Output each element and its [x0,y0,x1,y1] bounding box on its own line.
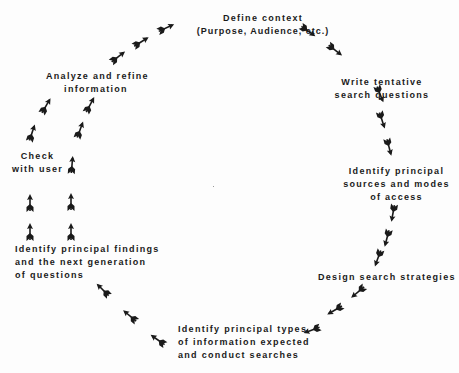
arrow-design-to-types-1 [349,284,367,301]
arrow-findings-to-analyze-3 [68,156,77,175]
arrow-findings-to-analyze-4 [74,120,87,139]
arrow-sources-to-design-1 [388,204,398,223]
node-analyze-refine: Analyze and refine information [46,70,146,96]
node-types-line-3: and conduct searches [178,349,310,362]
center-speck [213,186,214,187]
node-write-line-1: Write tentative [322,76,442,89]
arrow-types-to-findings-2 [121,308,139,325]
arrow-analyze-to-define-3 [156,21,175,35]
arrow-findings-to-analyze-2 [68,193,75,211]
node-identify-findings: Identify principal findings and the next… [15,243,160,282]
node-findings-line-1: Identify principal findings [15,243,160,256]
node-define-line-1: Define context [193,12,333,25]
arrow-types-to-findings-1 [149,332,168,348]
arrow-findings-to-analyze-5 [83,95,98,114]
arrow-define-to-write-2 [326,42,344,59]
arrow-check-to-analyze-1 [26,123,38,142]
node-check-user: Check with user [10,150,65,176]
node-check-line-1: Check [10,150,65,163]
node-types-line-1: Identify principal types [178,323,310,336]
arrow-write-to-sources-2 [376,110,388,129]
node-findings-line-3: of questions [15,269,160,282]
node-analyze-line-1: Analyze and refine [46,70,146,83]
node-design-line-1: Design search strategies [318,271,456,284]
arrow-findings-to-analyze-1 [68,223,75,241]
node-define-line-2: (Purpose, Audience, etc.) [193,25,333,38]
arrow-findings-to-check-2 [27,194,34,212]
arrow-design-to-types-2 [325,302,344,317]
node-sources-line-1: Identify principal [334,165,459,178]
arrow-analyze-to-define-1 [109,49,127,66]
arrow-analyze-to-define-2 [132,34,151,49]
node-write-questions: Write tentative search questions [322,76,442,102]
node-findings-line-2: and the next generation [15,256,160,269]
arrow-write-to-sources-3 [383,137,394,156]
arrow-types-to-findings-3 [94,281,112,299]
node-sources-line-2: sources and modes [334,178,459,191]
arrow-check-to-analyze-2 [38,96,53,115]
node-identify-sources: Identify principal sources and modes of … [334,165,459,204]
node-define-context: Define context (Purpose, Audience, etc.) [193,12,333,38]
node-identify-types: Identify principal types of information … [178,323,310,362]
arrow-sources-to-design-2 [381,228,392,247]
research-cycle-diagram: Define context (Purpose, Audience, etc.)… [0,0,459,373]
node-design-strategies: Design search strategies [318,271,456,284]
arrow-findings-to-check-1 [27,223,34,241]
node-write-line-2: search questions [322,89,442,102]
arrow-sources-to-design-3 [372,248,385,267]
node-types-line-2: of information expected [178,336,310,349]
node-check-line-2: with user [10,163,65,176]
node-analyze-line-2: information [46,83,146,96]
node-sources-line-3: of access [334,191,459,204]
